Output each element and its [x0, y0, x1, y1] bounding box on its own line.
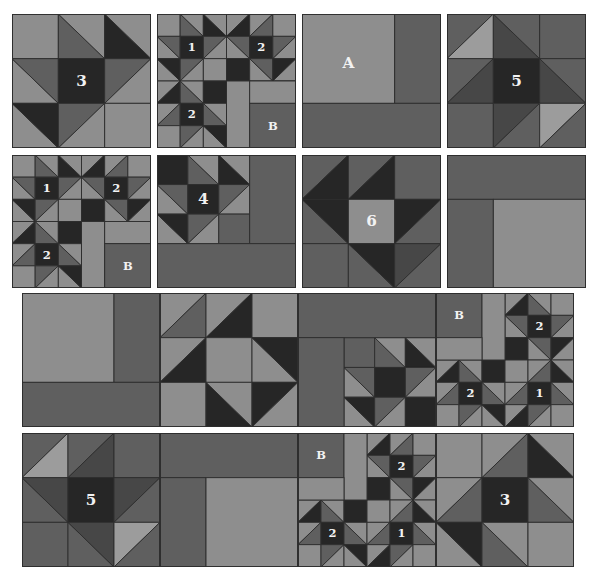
block-label: 2: [397, 460, 405, 474]
block-label: 2: [535, 320, 543, 334]
block-label: 6: [366, 213, 377, 231]
block-corner: [447, 155, 586, 288]
row4-3: 3: [436, 433, 574, 567]
block-label: 5: [511, 72, 522, 90]
block-label: 1: [397, 527, 405, 541]
row4-5: 5: [22, 433, 160, 567]
block-label: 3: [76, 72, 87, 90]
block-label: 2: [466, 387, 474, 401]
block-a: A: [302, 14, 441, 148]
block-label: 1: [535, 387, 543, 401]
row3-6: [160, 293, 298, 427]
block-label: 2: [188, 108, 196, 122]
block-label: B: [123, 259, 133, 273]
block-label: 4: [198, 191, 209, 209]
block-4: 4: [157, 155, 296, 288]
block-label: A: [341, 54, 354, 72]
block-label: 2: [257, 41, 265, 55]
block-1-2-2-b: 122B: [157, 14, 296, 148]
row3-a: [22, 293, 160, 427]
block-label: 5: [86, 491, 97, 509]
block-label: 3: [500, 491, 511, 509]
block-label: 1: [43, 181, 51, 195]
block-label: B: [454, 308, 464, 322]
row3-corner4: [298, 293, 436, 427]
block-5: 5: [447, 14, 586, 148]
block-6: 6: [302, 155, 441, 288]
row4-b122: B221: [298, 433, 436, 567]
block-label: B: [316, 448, 326, 462]
block-label: B: [268, 119, 278, 133]
block-label: 2: [112, 181, 120, 195]
block-3: 3: [12, 14, 151, 148]
block-label: 2: [43, 248, 51, 262]
row4-corner: [160, 433, 298, 567]
block-label: 2: [328, 527, 336, 541]
block-1-2-2-b-row2: 122B: [12, 155, 151, 288]
row3-122b: B221: [436, 293, 574, 427]
block-label: 1: [188, 41, 196, 55]
